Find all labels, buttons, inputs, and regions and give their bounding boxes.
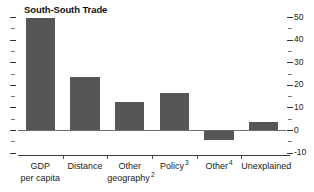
y-tick-label: 50 <box>294 13 303 22</box>
y-tick-right <box>287 130 293 131</box>
chart-figure: South-South Trade 50403020100-10 GDPper … <box>0 0 314 192</box>
category-label-line1: Distance <box>67 161 102 171</box>
y-tick-left <box>10 17 16 18</box>
category-label-line2: geography2 <box>107 172 152 184</box>
y-tick-minor-left <box>11 119 15 120</box>
y-tick-label: 40 <box>294 35 303 44</box>
y-tick-minor-right <box>288 51 292 52</box>
bar <box>115 102 144 130</box>
bar-slot <box>107 10 152 156</box>
plot-area <box>18 10 286 156</box>
y-tick-left <box>10 40 16 41</box>
bar <box>160 93 189 130</box>
bar-series <box>18 10 286 156</box>
y-tick-label: 0 <box>294 126 299 135</box>
y-tick-left <box>10 62 16 63</box>
category-tick <box>63 155 64 159</box>
y-tick-left <box>10 153 16 154</box>
y-tick-label: 30 <box>294 58 303 67</box>
category-label-line1: Other <box>118 161 141 171</box>
bar-slot <box>241 10 286 156</box>
y-tick-label: 10 <box>294 103 303 112</box>
y-tick-right <box>287 62 293 63</box>
y-tick-left <box>10 107 16 108</box>
category-tick <box>152 155 153 159</box>
y-tick-minor-right <box>288 119 292 120</box>
zero-baseline <box>18 130 286 131</box>
y-tick-minor-right <box>288 141 292 142</box>
bar <box>249 122 278 130</box>
y-tick-minor-right <box>288 28 292 29</box>
y-tick-minor-left <box>11 51 15 52</box>
y-tick-right <box>287 17 293 18</box>
footnote-marker: 4 <box>228 159 233 166</box>
category-label-line1: Other <box>205 161 228 171</box>
category-label: Policy3 <box>152 160 197 172</box>
category-tick <box>197 155 198 159</box>
y-tick-left <box>10 130 16 131</box>
y-tick-minor-left <box>11 28 15 29</box>
category-label: Unexplained <box>241 160 286 172</box>
bar <box>204 130 233 140</box>
bar-slot <box>63 10 108 156</box>
y-tick-right <box>287 153 293 154</box>
y-tick-minor-left <box>11 141 15 142</box>
y-tick-right <box>287 85 293 86</box>
category-label-line1: Unexplained <box>241 161 291 171</box>
y-tick-minor-left <box>11 74 15 75</box>
category-label: Distance <box>63 160 108 172</box>
category-labels: GDPper capitaDistanceOthergeography2Poli… <box>18 160 288 192</box>
category-label: Othergeography2 <box>107 160 152 184</box>
category-label-line1: GDP <box>31 161 51 171</box>
bar-slot <box>18 10 63 156</box>
y-tick-minor-left <box>11 96 15 97</box>
category-label: GDPper capita <box>18 160 63 184</box>
y-tick-label: -10 <box>294 148 306 157</box>
x-axis-line <box>18 155 290 156</box>
category-label: Other4 <box>197 160 242 172</box>
footnote-marker: 3 <box>184 159 189 166</box>
y-tick-minor-right <box>288 74 292 75</box>
category-tick <box>241 155 242 159</box>
bar-slot <box>197 10 242 156</box>
footnote-marker: 2 <box>150 171 155 178</box>
y-tick-right <box>287 107 293 108</box>
category-tick <box>107 155 108 159</box>
category-label-line2: per capita <box>18 172 63 184</box>
y-tick-left <box>10 85 16 86</box>
y-tick-right <box>287 40 293 41</box>
category-label-line1: Policy <box>160 161 184 171</box>
bar <box>70 77 99 130</box>
y-tick-minor-right <box>288 96 292 97</box>
bar <box>26 18 55 130</box>
bar-slot <box>152 10 197 156</box>
y-tick-label: 20 <box>294 80 303 89</box>
